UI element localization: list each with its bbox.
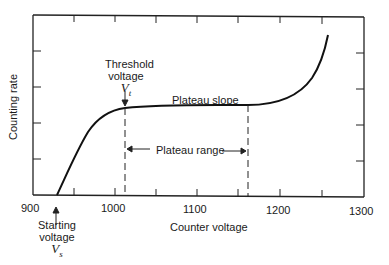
starting-line1: Starting [36, 219, 78, 231]
x-tick-label-1300: 1300 [349, 205, 373, 217]
plateau-slope-label: Plateau slope [172, 94, 239, 106]
threshold-annotation: Threshold voltage Vt [105, 58, 147, 99]
x-axis-label: Counter voltage [170, 221, 248, 233]
starting-voltage-annotation: Starting voltage Vs [36, 219, 78, 260]
annotation-arrows [53, 91, 246, 225]
threshold-line1: Threshold [105, 58, 147, 70]
threshold-symbol: Vt [105, 82, 147, 99]
x-tick-label-1000: 1000 [101, 202, 125, 214]
counting-rate-curve [57, 35, 328, 195]
x-ticks [74, 15, 322, 197]
starting-symbol: Vs [36, 243, 78, 260]
x-tick-label-900: 900 [21, 202, 39, 214]
plot-frame [33, 15, 364, 197]
x-tick-label-1100: 1100 [183, 203, 207, 215]
plateau-range-label: Plateau range [156, 144, 225, 156]
y-axis-label: Counting rate [7, 74, 19, 140]
x-tick-label-1200: 1200 [266, 204, 290, 216]
